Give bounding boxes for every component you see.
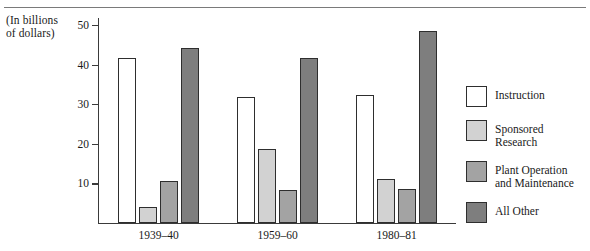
legend-label: Plant Operationand Maintenance — [495, 161, 574, 189]
bar — [160, 181, 178, 223]
legend-swatch — [466, 120, 487, 141]
bar-groups: 1939–401959–601980–81 — [99, 16, 456, 223]
legend-swatch — [466, 161, 487, 182]
y-tick-label: 20 — [78, 138, 90, 150]
y-tick-label: 40 — [78, 59, 90, 71]
bar — [419, 31, 437, 223]
bar — [118, 58, 136, 222]
bar-group: 1980–81 — [337, 16, 456, 223]
chart-figure: (In billions of dollars) 1020304050 1939… — [0, 0, 590, 251]
x-axis-category-label: 1959–60 — [218, 229, 337, 241]
legend-label-line-2: Research — [495, 136, 544, 149]
x-axis-category-label: 1980–81 — [337, 229, 456, 241]
y-tick-mark — [92, 183, 98, 184]
bar — [139, 207, 157, 223]
bar — [398, 189, 416, 223]
x-axis-line — [98, 223, 456, 224]
plot-area: 1020304050 1939–401959–601980–81 — [98, 16, 456, 224]
bar — [356, 95, 374, 223]
bar — [377, 179, 395, 223]
legend-item: Plant Operationand Maintenance — [466, 161, 588, 189]
bar — [258, 149, 276, 223]
legend-label-line-2: and Maintenance — [495, 177, 574, 190]
legend-swatch — [466, 86, 487, 107]
y-tick-mark — [92, 104, 98, 105]
legend-label: Instruction — [495, 86, 545, 102]
legend-item: Instruction — [466, 86, 588, 107]
x-axis-category-label: 1939–40 — [99, 229, 218, 241]
legend-item: SponsoredResearch — [466, 120, 588, 148]
bar-group: 1959–60 — [218, 16, 337, 223]
legend-label: SponsoredResearch — [495, 120, 544, 148]
top-divider-rule — [4, 7, 586, 8]
legend-item: All Other — [466, 202, 588, 223]
legend-swatch — [466, 202, 487, 223]
legend-label-line-1: Sponsored — [495, 123, 544, 136]
bar-group: 1939–40 — [99, 16, 218, 223]
y-tick-label: 30 — [78, 98, 90, 110]
y-tick-mark — [92, 65, 98, 66]
y-tick-label: 10 — [78, 177, 90, 189]
bar — [237, 97, 255, 223]
y-tick-mark — [92, 25, 98, 26]
y-tick-label: 50 — [78, 19, 90, 31]
legend-label: All Other — [495, 202, 539, 218]
bar — [181, 48, 199, 222]
chart-legend: InstructionSponsoredResearchPlant Operat… — [466, 86, 588, 236]
legend-label-line-1: Plant Operation — [495, 164, 574, 177]
bar — [279, 190, 297, 223]
y-tick-mark — [92, 144, 98, 145]
bar — [300, 58, 318, 222]
